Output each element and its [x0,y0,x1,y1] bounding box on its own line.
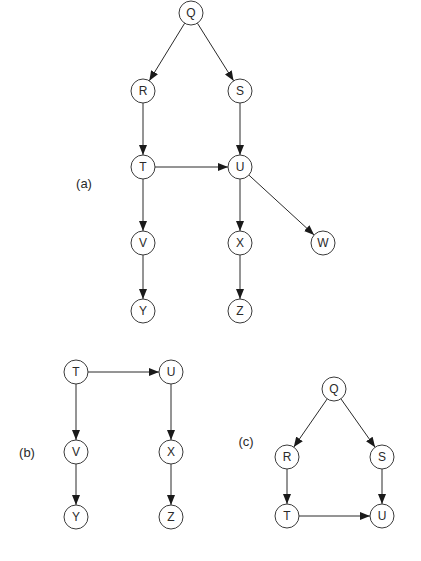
node-label: S [236,84,244,98]
node-label: X [167,445,175,459]
node-label: U [378,509,387,523]
node-label: Q [329,382,338,396]
node-q: Q [322,377,346,401]
node-u: U [370,504,394,528]
bayesian-network-diagram: (a)QRSTUVXWYZ(b)TUVXYZ(c)QRSTU [0,0,421,561]
node-s: S [370,445,394,469]
node-r: R [131,79,155,103]
panel-c: (c)QRSTU [238,377,394,528]
panel-label: (c) [238,434,253,449]
node-v: V [64,440,88,464]
node-y: Y [64,505,88,529]
edge-q-to-r [149,23,184,81]
panel-label: (b) [19,445,35,460]
edge-u-to-w [249,175,314,235]
edge-q-to-s [341,399,375,447]
edge-q-to-s [197,23,233,81]
node-label: R [139,84,148,98]
node-label: T [283,509,291,523]
node-label: U [167,365,176,379]
node-label: R [283,450,292,464]
node-label: T [139,160,147,174]
node-v: V [131,231,155,255]
node-t: T [131,155,155,179]
node-u: U [228,155,252,179]
node-x: X [159,440,183,464]
node-z: Z [228,299,252,323]
node-label: Z [167,510,174,524]
node-label: T [72,365,80,379]
node-x: X [228,231,252,255]
node-label: S [378,450,386,464]
node-label: V [139,236,147,250]
node-label: V [72,445,80,459]
panel-a: (a)QRSTUVXWYZ [76,1,335,323]
node-y: Y [131,299,155,323]
node-r: R [275,445,299,469]
node-label: W [317,236,329,250]
node-label: Y [139,304,147,318]
panel-label: (a) [76,176,92,191]
node-label: Z [236,304,243,318]
node-label: X [236,236,244,250]
node-w: W [311,231,335,255]
node-label: U [236,160,245,174]
node-q: Q [179,1,203,25]
node-t: T [64,360,88,384]
node-t: T [275,504,299,528]
node-label: Y [72,510,80,524]
node-label: Q [186,6,195,20]
node-u: U [159,360,183,384]
node-z: Z [159,505,183,529]
node-s: S [228,79,252,103]
panel-b: (b)TUVXYZ [19,360,183,529]
edge-q-to-r [294,399,327,447]
